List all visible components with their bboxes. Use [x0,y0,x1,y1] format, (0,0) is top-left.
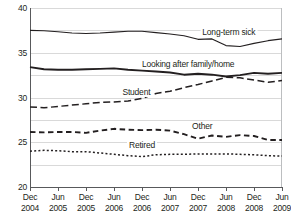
x-tick-year: 2005 [49,203,67,214]
series-label-other: Other [190,121,214,131]
x-axis-tick-label: Dec2007 [189,192,207,213]
y-axis-tick-label: 40 [18,3,27,13]
x-tick-month: Jun [49,192,67,203]
x-axis-tick-label: Jun2009 [273,192,291,213]
x-tick-month: Jun [273,192,291,203]
x-tick-month: Jun [217,192,235,203]
x-tick-year: 2007 [189,203,207,214]
x-axis-tick [170,187,171,191]
y-axis-tick-label: 25 [18,137,27,147]
chart-container: 0510152025303540 Dec2004Jun2005Dec2005Ju… [0,0,291,222]
x-tick-month: Jun [105,192,123,203]
x-axis-tick-label: Jun2006 [105,192,123,213]
x-axis-tick-label: Jun2008 [217,192,235,213]
x-tick-month: Dec [189,192,207,203]
x-axis-tick [86,187,87,191]
x-tick-year: 2006 [105,203,123,214]
x-axis-tick [58,187,59,191]
x-axis-tick [30,187,31,191]
x-axis-tick [142,187,143,191]
x-axis-tick-label: Jun2007 [161,192,179,213]
x-tick-month: Dec [21,192,39,203]
series-label-long-term-sick: Long-term sick [200,27,257,37]
x-axis-tick-label: Dec2006 [133,192,151,213]
x-axis-tick [254,187,255,191]
y-axis-tick-label: 30 [18,93,27,103]
series-line-other [30,129,282,140]
plot-area: 0510152025303540 Dec2004Jun2005Dec2005Ju… [30,8,282,187]
x-tick-year: 2007 [161,203,179,214]
series-line-retired [30,150,282,156]
x-tick-month: Dec [77,192,95,203]
series-label-looking-after-family-home: Looking after family/home [140,59,236,69]
x-axis-tick [282,187,283,191]
x-tick-month: Jun [161,192,179,203]
x-tick-year: 2009 [273,203,291,214]
x-tick-year: 2005 [77,203,95,214]
x-axis-tick [226,187,227,191]
y-axis-tick-label: 35 [18,48,27,58]
x-axis-tick-label: Dec2004 [21,192,39,213]
x-axis-tick [198,187,199,191]
x-tick-month: Dec [245,192,263,203]
x-axis-tick [114,187,115,191]
x-axis-tick-label: Dec2005 [77,192,95,213]
gridline-0: 0 [30,187,282,188]
x-axis-tick-label: Dec2008 [245,192,263,213]
series-label-student: Student [120,87,152,97]
y-axis-tick-label: 20 [18,182,27,192]
x-tick-year: 2004 [21,203,39,214]
x-tick-year: 2008 [217,203,235,214]
series-label-retired: Retired [127,140,157,150]
x-tick-year: 2008 [245,203,263,214]
x-tick-year: 2006 [133,203,151,214]
series-line-student [30,77,282,107]
x-axis-tick-label: Jun2005 [49,192,67,213]
x-tick-month: Dec [133,192,151,203]
